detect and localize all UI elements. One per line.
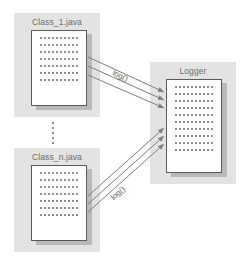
edge-classn-logger[interactable]	[88, 128, 164, 212]
edges-layer	[0, 0, 244, 270]
logging-architecture-diagram: Class_1.java Class_n.java	[0, 0, 244, 270]
